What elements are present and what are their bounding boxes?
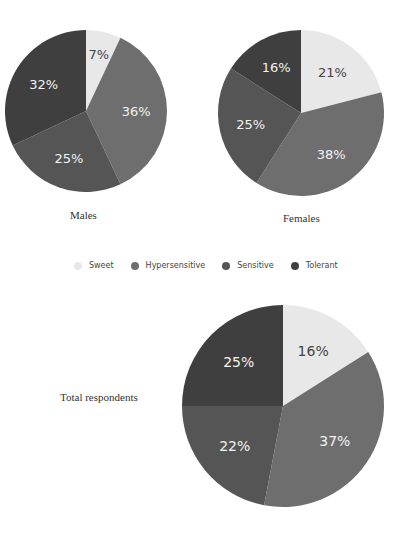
legend-swatch-tolerant [291, 262, 299, 270]
pie-label-sweet: 21% [318, 65, 347, 80]
legend-swatch-sensitive [222, 262, 230, 270]
caption-total: Total respondents [60, 391, 138, 403]
legend-label-sensitive: Sensitive [237, 261, 273, 270]
pie-label-sensitive: 25% [55, 151, 84, 166]
legend-label-sweet: Sweet [89, 261, 114, 270]
legend-label-tolerant: Tolerant [306, 261, 338, 270]
caption-males: Males [70, 209, 97, 221]
legend-item-hypersensitive: Hypersensitive [131, 261, 206, 270]
legend-label-hypersensitive: Hypersensitive [146, 261, 206, 270]
legend-swatch-hypersensitive [131, 262, 139, 270]
pie-total: 16%37%22%25% [182, 305, 384, 507]
pie-label-tolerant: 32% [29, 77, 58, 92]
pie-label-sweet: 7% [88, 47, 109, 62]
legend-item-sweet: Sweet [74, 261, 114, 270]
pie-label-tolerant: 16% [262, 60, 291, 75]
pie-females: 21%38%25%16% [218, 30, 384, 196]
pie-males: 7%36%25%32% [5, 30, 167, 192]
legend-item-sensitive: Sensitive [222, 261, 273, 270]
pie-label-tolerant: 25% [223, 354, 254, 370]
pie-label-hypersensitive: 36% [122, 104, 151, 119]
caption-females: Females [283, 212, 320, 224]
chart-root: 7%36%25%32% 21%38%25%16% 16%37%22%25% Ma… [0, 0, 412, 538]
pie-label-sensitive: 25% [236, 117, 265, 132]
pie-label-hypersensitive: 38% [317, 147, 346, 162]
legend: Sweet Hypersensitive Sensitive Tolerant [74, 261, 355, 270]
legend-item-tolerant: Tolerant [291, 261, 338, 270]
pie-label-sensitive: 22% [219, 438, 250, 454]
legend-swatch-sweet [74, 262, 82, 270]
pie-label-hypersensitive: 37% [319, 433, 350, 449]
pie-label-sweet: 16% [298, 343, 329, 359]
